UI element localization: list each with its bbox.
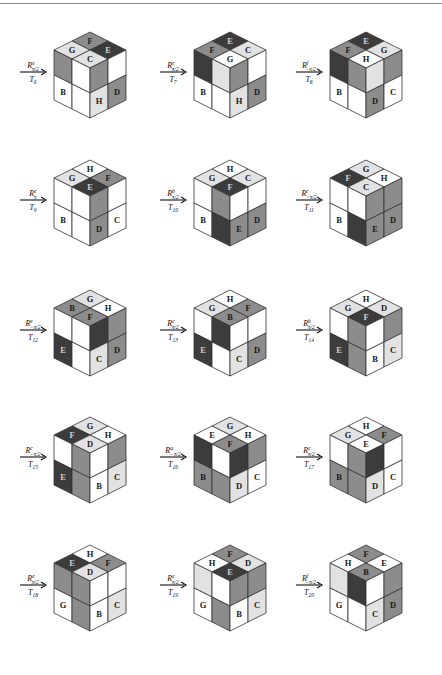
panel-T6: FEGCBHDReπ/2T6 (20, 32, 126, 118)
facelet-label: F (363, 549, 368, 559)
panel-T9: HFGEBDCReπT9 (20, 160, 126, 246)
transform-label: T15 (28, 460, 38, 470)
operator-label: Rcπ/2 (166, 318, 179, 330)
transition-arrow-T16: Ra−π/2T16 (160, 445, 186, 470)
facelet-label: G (345, 303, 352, 313)
facelet-label: F (227, 549, 232, 559)
facelet-label: B (336, 87, 342, 97)
facelet-label: G (363, 164, 370, 174)
transition-arrow-T14: Rbπ/2T14 (296, 318, 322, 343)
panel-T13: HFGBECDRcπ/2T13 (160, 290, 266, 376)
facelet-label: H (105, 303, 112, 313)
panel-T16: GHEFBDCRa−π/2T16 (160, 417, 266, 503)
facelet-label: E (87, 182, 93, 192)
panel-T14: HDGFEBCRbπ/2T14 (296, 290, 402, 376)
facelet-label: F (345, 173, 350, 183)
transition-arrow-T18: Reπ/2T18 (20, 573, 46, 598)
facelet-label: E (372, 224, 378, 234)
facelet-label: G (336, 600, 343, 610)
facelet-label: H (87, 164, 94, 174)
facelet-label: G (209, 303, 216, 313)
facelet-label: F (381, 430, 386, 440)
operator-label: Reπ/2 (166, 573, 179, 585)
facelet-label: D (254, 215, 260, 225)
facelet-label: B (227, 312, 233, 322)
transition-arrow-T6: Reπ/2T6 (20, 60, 46, 85)
facelet-label: H (105, 430, 112, 440)
facelet-label: H (227, 294, 234, 304)
facelet-label: E (227, 36, 233, 46)
panel-T20: FEHBGCDRf−π/2T20 (296, 545, 402, 631)
facelet-label: B (363, 567, 369, 577)
facelet-label: F (363, 312, 368, 322)
facelet-label: C (96, 354, 102, 364)
facelet-label: F (227, 439, 232, 449)
facelet-label: D (254, 87, 260, 97)
panel-T11: GHFCBEDRc−π/2T11 (296, 160, 402, 246)
facelet-label: B (200, 215, 206, 225)
facelet-label: F (105, 173, 110, 183)
facelet-label: C (363, 182, 369, 192)
facelet-label: E (60, 472, 66, 482)
transform-label: T20 (304, 588, 314, 598)
facelet-label: G (209, 173, 216, 183)
facelet-label: B (69, 303, 75, 313)
facelet-label: D (245, 558, 251, 568)
transform-label: T7 (169, 75, 176, 85)
facelet-label: C (372, 609, 378, 619)
transition-arrow-T20: Rf−π/2T20 (296, 573, 322, 598)
facelet-label: C (245, 173, 251, 183)
facelet-label: D (390, 600, 396, 610)
facelet-label: G (60, 600, 67, 610)
facelet-label: F (209, 45, 214, 55)
facelet-label: H (245, 430, 252, 440)
facelet-label: G (227, 54, 234, 64)
facelet-label: F (345, 45, 350, 55)
facelet-label: C (236, 354, 242, 364)
operator-label: Rcπ/2 (166, 60, 179, 72)
facelet-label: G (200, 600, 207, 610)
facelet-label: B (372, 354, 378, 364)
facelet-label: B (96, 609, 102, 619)
facelet-label: E (69, 558, 75, 568)
facelet-label: D (87, 439, 93, 449)
facelet-label: G (69, 45, 76, 55)
facelet-label: B (336, 215, 342, 225)
operator-label: Re−π/2 (24, 318, 40, 330)
facelet-label: F (69, 430, 74, 440)
panel-T12: GHBFECDRe−π/2T12 (20, 290, 126, 376)
operator-label: Rbπ/2 (302, 318, 315, 330)
facelet-label: E (363, 36, 369, 46)
facelet-label: E (236, 224, 242, 234)
transform-label: T6 (29, 75, 36, 85)
transition-arrow-T9: ReπT9 (20, 188, 46, 213)
facelet-label: H (363, 54, 370, 64)
facelet-label: F (87, 312, 92, 322)
facelet-label: E (227, 567, 233, 577)
facelet-label: D (254, 345, 260, 355)
panel-T18: HFEDGBCReπ/2T18 (20, 545, 126, 631)
operator-label: Rf−π/2 (301, 573, 316, 585)
facelet-label: H (345, 558, 352, 568)
panel-T8: EGFHBDCRf−π/2T8 (296, 32, 402, 118)
facelet-label: E (60, 345, 66, 355)
transform-label: T11 (304, 203, 314, 213)
facelet-label: B (60, 87, 66, 97)
facelet-label: D (381, 303, 387, 313)
transform-label: T10 (168, 203, 178, 213)
facelet-label: D (114, 345, 120, 355)
facelet-label: G (381, 45, 388, 55)
facelet-label: D (372, 481, 378, 491)
facelet-label: C (390, 345, 396, 355)
facelet-label: C (114, 600, 120, 610)
facelet-label: C (254, 600, 260, 610)
transition-arrow-T15: Rc−π/2T15 (20, 445, 46, 470)
transform-label: T19 (168, 588, 178, 598)
facelet-label: F (105, 558, 110, 568)
operator-label: Rf−π/2 (301, 60, 316, 72)
facelet-label: D (390, 215, 396, 225)
facelet-label: H (87, 549, 94, 559)
facelet-label: E (381, 558, 387, 568)
facelet-label: F (87, 36, 92, 46)
facelet-label: B (60, 215, 66, 225)
